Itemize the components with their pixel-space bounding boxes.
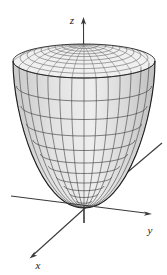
x-axis-positive-line <box>32 209 84 256</box>
x-axis-label: x <box>35 259 41 271</box>
paraboloid-figure: z y x <box>0 0 167 275</box>
y-axis-label: y <box>147 224 153 236</box>
paraboloid-surface <box>13 39 155 208</box>
y-axis-arrowhead <box>144 211 152 215</box>
z-axis-label: z <box>69 14 75 26</box>
figure-canvas: z y x <box>0 0 167 275</box>
axis-lines-front <box>11 196 149 256</box>
